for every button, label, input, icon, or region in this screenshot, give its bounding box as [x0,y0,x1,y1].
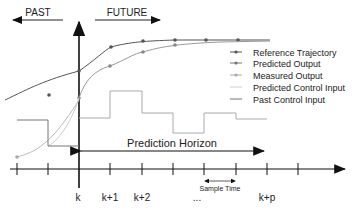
sample-time-label: Sample Time [200,185,241,193]
future-label: FUTURE [107,7,148,18]
measured-output [15,98,79,159]
past-label: PAST [25,7,50,18]
prediction-horizon-label: Prediction Horizon [127,137,217,149]
legend-predicted-output: Predicted Output [230,59,321,69]
tick-label-k2: k+2 [134,192,151,203]
svg-text:Past Control Input: Past Control Input [253,95,326,105]
svg-text:Predicted Control Input: Predicted Control Input [253,83,346,93]
time-axis [10,163,345,175]
legend-reference-trajectory: Reference Trajectory [230,48,337,58]
mpc-diagram: Prediction Horizon Sample Time k k+1 k+2… [0,0,362,213]
svg-text:Measured Output: Measured Output [253,71,323,81]
legend: Reference Trajectory Predicted Output Me… [230,48,346,105]
svg-text:Predicted Output: Predicted Output [253,59,321,69]
past-control-input [17,120,79,146]
tick-label-ellipsis: ... [193,192,201,203]
legend-past-control-input: Past Control Input [230,95,326,105]
tick-label-k1: k+1 [102,192,119,203]
legend-predicted-control-input: Predicted Control Input [230,83,346,93]
tick-label-k: k [76,192,82,203]
legend-measured-output: Measured Output [230,71,323,81]
predicted-control-input [79,91,267,133]
tick-label-kp: k+p [259,192,276,203]
svg-text:Reference Trajectory: Reference Trajectory [253,48,337,58]
